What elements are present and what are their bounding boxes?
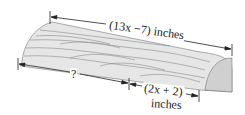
log-diagram: (13x −7) inches ? (2x + 2) inches [0,0,245,115]
log-illustration [0,0,245,115]
unknown-length-label: ? [70,68,77,80]
known-length-unit-label: inches [150,97,183,111]
